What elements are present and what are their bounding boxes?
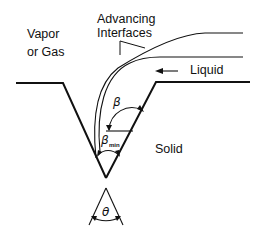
solid-surface-right — [106, 82, 250, 178]
label-advancing: Advancing — [97, 13, 155, 26]
label-interfaces: Interfaces — [97, 27, 152, 40]
label-beta: β — [113, 96, 121, 108]
interfaces-leader — [120, 41, 145, 55]
liquid-arrow-head — [155, 68, 163, 74]
label-vapor: Vapor — [27, 28, 59, 41]
label-or-gas: or Gas — [27, 46, 65, 59]
label-theta: θ — [102, 206, 109, 218]
label-beta-min: β — [101, 134, 109, 146]
beta-arc-arrow-start — [106, 125, 112, 131]
beta-min-arc-arrow-start — [97, 150, 102, 157]
label-liquid: Liquid — [190, 64, 223, 77]
solid-surface-left — [16, 83, 106, 178]
groove-wetting-diagram: Vapor or Gas Advancing Interfaces Liquid… — [0, 0, 264, 231]
label-beta-min-subscript: min — [109, 142, 120, 148]
label-solid: Solid — [155, 143, 183, 156]
